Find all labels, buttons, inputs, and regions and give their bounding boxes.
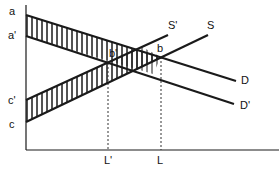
label-b: b (157, 42, 163, 54)
label-L-prime: L' (104, 154, 112, 166)
label-D-prime: D' (240, 99, 250, 111)
label-c-prime: c' (8, 94, 16, 106)
supply-demand-diagram: a a' c' c S' S D D' b' b L' L (0, 0, 279, 179)
mask (161, 35, 236, 81)
label-a: a (9, 5, 16, 17)
label-S: S (207, 19, 214, 31)
label-L: L (157, 154, 163, 166)
label-b-prime: b' (109, 47, 117, 59)
label-a-prime: a' (8, 29, 16, 41)
label-S-prime: S' (168, 19, 177, 31)
label-D: D (241, 74, 249, 86)
label-c: c (9, 118, 15, 130)
